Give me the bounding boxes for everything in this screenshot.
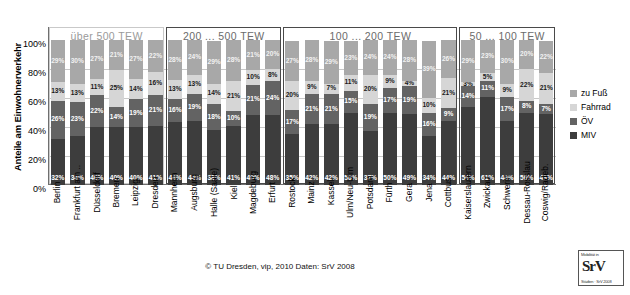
bar-value-label: 27% xyxy=(286,58,299,65)
y-tick-label: 20% xyxy=(12,156,46,165)
bar-segment-ov: 22% xyxy=(90,95,104,127)
table-row[interactable]: 50%17%9%24% xyxy=(383,40,397,185)
table-row[interactable]: 34%16%10%39% xyxy=(422,40,436,185)
bar-segment-ov: 17% xyxy=(500,97,514,122)
table-row[interactable]: 42%21%9%28% xyxy=(305,40,319,185)
y-tick-label: 80% xyxy=(12,69,46,78)
table-row[interactable]: 34%23%13%30% xyxy=(70,40,84,185)
table-row[interactable]: 61%11%5%23% xyxy=(480,40,494,185)
table-row[interactable]: 49%19%4%28% xyxy=(402,40,416,185)
legend-item-miv[interactable]: MIV xyxy=(570,128,630,142)
bar-value-label: 41% xyxy=(227,175,240,182)
bar-value-label: 19% xyxy=(129,110,142,117)
bar-value-label: 50% xyxy=(383,175,396,182)
x-tick-text: Coswig/Radeb. xyxy=(542,163,551,221)
legend-label: zu Fuß xyxy=(581,88,607,98)
x-tick-label: Dessau-Rosslau xyxy=(517,187,537,265)
bar-segment-fahrrad: 9% xyxy=(500,84,514,97)
y-tick-label: 60% xyxy=(12,98,46,107)
x-tick-label: Coswig/Radeb. xyxy=(536,187,556,265)
legend-swatch-icon xyxy=(570,90,577,97)
bar-value-label: 11% xyxy=(481,85,494,92)
bar-value-label: 14% xyxy=(110,114,123,121)
bar-value-label: 28% xyxy=(168,57,181,64)
table-row[interactable]: 40%22%11%27% xyxy=(90,40,104,185)
table-row[interactable]: 42%21%7%29% xyxy=(324,40,338,185)
bar-segment-fuss: 27% xyxy=(90,40,104,79)
x-tick-text: Düsseldorf xyxy=(92,172,101,213)
srv-logo: Mobilität in SrV Städten · SrV 2008 xyxy=(578,250,624,286)
table-row[interactable]: 48%24%8%20% xyxy=(265,40,279,185)
table-row[interactable]: 35%17%20%27% xyxy=(285,40,299,185)
bar-value-label: 5% xyxy=(483,74,493,81)
x-tick-label: Dresden xyxy=(146,187,166,265)
x-tick-text: Schwerin xyxy=(503,175,512,210)
bar-value-label: 9% xyxy=(307,84,317,91)
x-tick-label: Kassel xyxy=(322,187,342,265)
bar-segment-fuss: 29% xyxy=(324,41,338,83)
bar-segment-fuss: 30% xyxy=(500,40,514,84)
table-row[interactable]: 32%26%13%29% xyxy=(51,40,65,185)
bar-value-label: 16% xyxy=(149,80,162,87)
table-row[interactable]: 40%19%14%27% xyxy=(129,40,143,185)
x-tick-text: Magdeburg xyxy=(249,170,258,213)
x-tick-text: Dresden xyxy=(151,176,160,208)
bar-value-label: 34% xyxy=(422,175,435,182)
x-tick-label: Düsseldorf xyxy=(87,187,107,265)
bar-segment-fuss: 20% xyxy=(265,40,279,69)
bar-value-label: 21% xyxy=(442,90,455,97)
bar-value-label: 14% xyxy=(461,93,474,100)
bar-value-label: 29% xyxy=(461,58,474,65)
table-row[interactable]: 44%17%9%30% xyxy=(500,40,514,185)
bar-value-label: 21% xyxy=(110,52,123,59)
bar-segment-fahrrad: 3% xyxy=(461,82,475,86)
footer-credit: © TU Dresden, vip, 2010 Daten: SrV 2008 xyxy=(0,262,560,271)
table-row[interactable]: 41%21%16%22% xyxy=(148,40,162,185)
x-tick-label: Kaiserslautern xyxy=(458,187,478,265)
legend-item-fuss[interactable]: zu Fuß xyxy=(570,86,630,100)
bar-value-label: 22% xyxy=(520,82,533,89)
table-row[interactable]: 50%15%11%23% xyxy=(344,40,358,185)
table-row[interactable]: 49%21%10%21% xyxy=(246,40,260,185)
bar-segment-fuss: 28% xyxy=(226,40,240,81)
bar-segment-fuss: 28% xyxy=(305,40,319,81)
bar-value-label: 26% xyxy=(442,56,455,63)
table-row[interactable]: 54%14%3%29% xyxy=(461,40,475,185)
bar-segment-fuss: 29% xyxy=(51,40,65,82)
bar-segment-fuss: 23% xyxy=(480,40,494,73)
table-row[interactable]: 41%10%21%28% xyxy=(226,40,240,185)
bar-segment-ov: 17% xyxy=(383,88,397,113)
bar-value-label: 28% xyxy=(305,57,318,64)
x-tick-label: Ulm/Neu-Ulm xyxy=(341,187,361,265)
x-tick-text: Mainz xyxy=(307,181,316,204)
bar-value-label: 28% xyxy=(227,57,240,64)
x-tick-text: Dessau-Rosslau xyxy=(522,161,531,223)
table-row[interactable]: 44%16%13%28% xyxy=(168,40,182,185)
bar-segment-fahrrad: 20% xyxy=(363,75,377,104)
legend-item-ov[interactable]: ÖV xyxy=(570,114,630,128)
bar-segment-fahrrad: 14% xyxy=(207,84,221,104)
table-row[interactable]: 38%18%14%29% xyxy=(207,40,221,185)
bar-value-label: 49% xyxy=(403,175,416,182)
bar-segment-fuss: 24% xyxy=(363,40,377,75)
legend-item-fahrrad[interactable]: Fahrrad xyxy=(570,100,630,114)
bar-segment-miv: 61% xyxy=(480,97,494,185)
table-row[interactable]: 40%14%25%21% xyxy=(109,40,123,185)
chart-figure: Anteile am Einwohnerverkehr 100%80%60%40… xyxy=(0,0,630,295)
bar-value-label: 20% xyxy=(520,51,533,58)
table-row[interactable]: 44%19%13%24% xyxy=(187,40,201,185)
bar-segment-ov: 10% xyxy=(226,111,240,126)
table-row[interactable]: 37%19%20%24% xyxy=(363,40,377,185)
bar-segment-fahrrad: 16% xyxy=(148,72,162,95)
bar-value-label: 9% xyxy=(385,78,395,85)
table-row[interactable]: 44%9%21%26% xyxy=(441,40,455,185)
bar-value-label: 13% xyxy=(51,88,64,95)
bar-segment-fahrrad: 4% xyxy=(402,81,416,87)
bar-segment-fuss: 28% xyxy=(402,40,416,81)
bar-value-label: 21% xyxy=(540,85,553,92)
legend-label: ÖV xyxy=(581,116,593,126)
x-axis-labels: BerlinFrankfurt am ..DüsseldorfBremenLei… xyxy=(48,187,556,267)
x-tick-label: Augsburg xyxy=(185,187,205,265)
bar-segment-ov: 24% xyxy=(265,81,279,116)
bar-value-label: 27% xyxy=(129,56,142,63)
